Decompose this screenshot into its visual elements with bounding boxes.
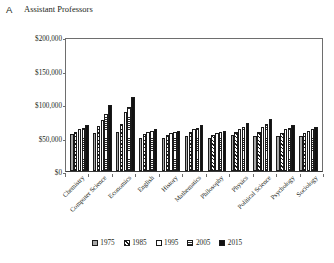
bar xyxy=(269,119,272,171)
bar-group xyxy=(297,39,320,171)
x-axis-tick-mark xyxy=(159,174,160,177)
bar xyxy=(246,123,249,171)
y-axis-tick-label: $150,000 xyxy=(35,69,66,77)
y-axis-tick-label: $50,000 xyxy=(39,136,66,144)
x-axis-tick-mark xyxy=(300,174,301,177)
legend-item[interactable]: 1985 xyxy=(124,239,147,247)
legend-swatch-icon xyxy=(187,240,193,246)
legend-swatch-icon xyxy=(156,240,162,246)
bar xyxy=(291,125,294,171)
x-axis-tick-label: Philosophy xyxy=(199,174,225,200)
bar xyxy=(314,127,317,171)
x-axis-tick-label: Psychology xyxy=(269,174,296,201)
x-axis-tick-label: Economics xyxy=(106,174,132,200)
bar-group xyxy=(228,39,251,171)
bar xyxy=(154,129,157,171)
bar xyxy=(108,105,111,171)
legend-label: 1995 xyxy=(164,239,178,247)
legend-item[interactable]: 2015 xyxy=(219,239,242,247)
legend-label: 2015 xyxy=(228,239,242,247)
bar-group xyxy=(137,39,160,171)
x-axis-tick-label: Physics xyxy=(230,174,249,193)
chart-title: Assistant Professors xyxy=(24,4,93,14)
x-axis-tick-mark xyxy=(112,174,113,177)
legend-label: 1975 xyxy=(100,239,114,247)
bar-group xyxy=(251,39,274,171)
legend-item[interactable]: 2005 xyxy=(187,239,210,247)
x-axis-labels: ChemistryComputer ScienceEconomicsEnglis… xyxy=(65,174,323,234)
legend-item[interactable]: 1975 xyxy=(92,239,115,247)
y-axis-tick-mark xyxy=(63,140,66,141)
plot-area: $0$50,000$100,000$150,000$200,000 xyxy=(65,38,323,172)
x-axis-tick-mark xyxy=(88,174,89,177)
x-axis-tick-label: Sociology xyxy=(295,174,319,198)
y-axis-tick-mark xyxy=(63,39,66,40)
y-axis-tick-mark xyxy=(63,73,66,74)
x-axis-tick-mark xyxy=(206,174,207,177)
x-axis-tick-label: History xyxy=(159,174,178,193)
legend-label: 1985 xyxy=(132,239,146,247)
legend-label: 2005 xyxy=(196,239,210,247)
bar-group xyxy=(114,39,137,171)
y-axis-tick-mark xyxy=(63,106,66,107)
panel-label: A xyxy=(6,4,12,15)
x-axis-tick-mark xyxy=(276,174,277,177)
x-axis-tick-mark xyxy=(135,174,136,177)
chart-legend: 19751985199520052015 xyxy=(0,239,334,247)
bar xyxy=(223,131,226,171)
x-axis-tick-mark xyxy=(229,174,230,177)
bar-group xyxy=(183,39,206,171)
legend-swatch-icon xyxy=(124,240,130,246)
chart-container: A Assistant Professors $0$50,000$100,000… xyxy=(0,0,334,263)
bars-layer xyxy=(66,39,322,171)
bar xyxy=(131,97,134,171)
legend-swatch-icon xyxy=(219,240,225,246)
bar-group xyxy=(205,39,228,171)
y-axis-tick-label: $200,000 xyxy=(35,35,66,43)
bar xyxy=(85,125,88,171)
x-axis-tick-mark xyxy=(182,174,183,177)
legend-item[interactable]: 1995 xyxy=(156,239,179,247)
bar-group xyxy=(68,39,91,171)
y-axis-tick-label: $100,000 xyxy=(35,102,66,110)
x-axis-tick-label: English xyxy=(136,174,155,193)
bar-group xyxy=(274,39,297,171)
x-axis-tick-mark xyxy=(65,174,66,177)
bar xyxy=(177,131,180,171)
x-axis-tick-mark xyxy=(323,174,324,177)
x-axis-tick-mark xyxy=(253,174,254,177)
bar xyxy=(200,125,203,171)
bar-group xyxy=(91,39,114,171)
bar-group xyxy=(160,39,183,171)
legend-swatch-icon xyxy=(92,240,98,246)
